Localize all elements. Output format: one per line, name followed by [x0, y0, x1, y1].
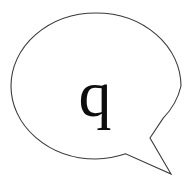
speech-balloon-illustration: q [0, 0, 192, 189]
speech-balloon-shape [0, 0, 192, 189]
